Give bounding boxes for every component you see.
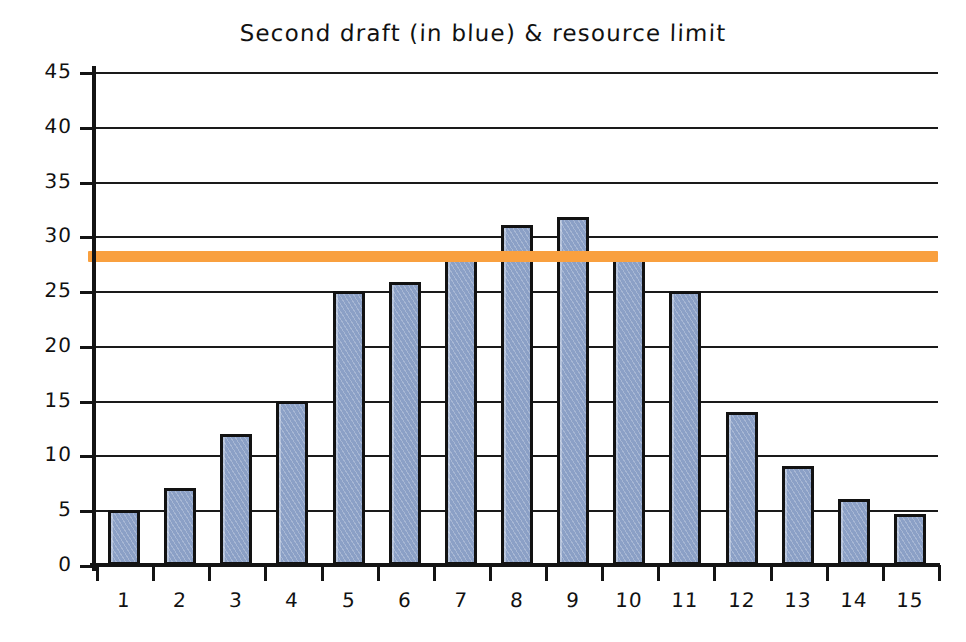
x-axis-tick	[321, 565, 324, 581]
x-axis-tick-label: 9	[552, 588, 593, 612]
x-axis-tick-label: 12	[721, 588, 762, 612]
x-axis-tick	[601, 565, 604, 581]
x-axis-tick-label: 8	[496, 588, 537, 612]
x-axis-tick	[208, 565, 211, 581]
x-axis-tick-label: 4	[272, 588, 313, 612]
x-axis-tick-label: 7	[440, 588, 481, 612]
chart-root: Second draft (in blue) & resource limit …	[0, 0, 966, 642]
x-axis-tick-label: 10	[609, 588, 650, 612]
x-axis-tick	[657, 565, 660, 581]
x-axis-tick	[770, 565, 773, 581]
x-axis-tick-label: 3	[216, 588, 257, 612]
x-axis-tick-label: 15	[889, 588, 930, 612]
x-axis-tick-label: 5	[328, 588, 369, 612]
x-axis-ticks-layer: 123456789101112131415	[0, 0, 966, 642]
x-axis-tick	[938, 565, 941, 581]
x-axis-tick	[264, 565, 267, 581]
x-axis-tick-label: 1	[103, 588, 144, 612]
x-axis-tick	[713, 565, 716, 581]
x-axis-tick	[489, 565, 492, 581]
x-axis-tick-label: 14	[833, 588, 874, 612]
x-axis-tick-label: 11	[665, 588, 706, 612]
x-axis-tick	[152, 565, 155, 581]
x-axis-tick	[96, 565, 99, 581]
x-axis-tick-label: 2	[160, 588, 201, 612]
x-axis-tick	[882, 565, 885, 581]
x-axis-tick	[433, 565, 436, 581]
x-axis-tick-label: 13	[777, 588, 818, 612]
x-axis-tick	[545, 565, 548, 581]
x-axis-tick	[826, 565, 829, 581]
x-axis-tick-label: 6	[384, 588, 425, 612]
x-axis-tick	[377, 565, 380, 581]
